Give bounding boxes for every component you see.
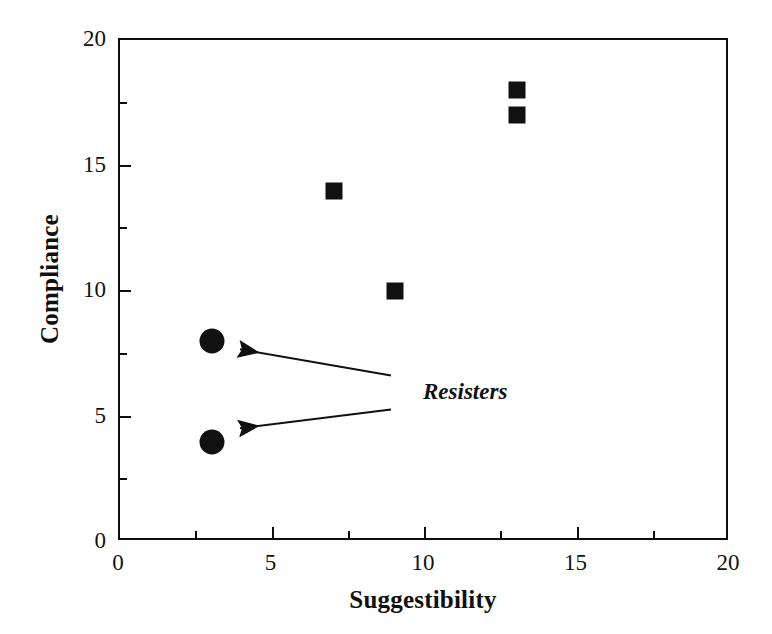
data-point-square xyxy=(325,182,342,199)
x-axis-tick-label: 10 xyxy=(412,551,435,574)
scatter-plot-figure: 05101520 05101520 Suggestibility Complia… xyxy=(0,0,772,634)
plot-area xyxy=(118,38,728,540)
y-axis-tick-minor xyxy=(120,353,127,355)
x-axis-tick-label: 5 xyxy=(265,551,277,574)
y-axis-tick-major xyxy=(120,416,131,418)
y-axis-tick-label: 5 xyxy=(95,403,107,426)
y-axis-tick-minor xyxy=(120,102,127,104)
x-axis-tick-label: 0 xyxy=(112,551,124,574)
x-axis-tick-major xyxy=(272,527,274,538)
x-axis-tick-major xyxy=(424,527,426,538)
data-point-square xyxy=(386,283,403,300)
data-point-circle xyxy=(199,429,224,454)
data-point-square xyxy=(508,82,525,99)
x-axis-tick-minor xyxy=(653,531,655,538)
data-point-square xyxy=(508,107,525,124)
y-axis-tick-minor xyxy=(120,478,127,480)
data-point-circle xyxy=(199,329,224,354)
annotation-resisters-label: Resisters xyxy=(423,379,507,405)
x-axis-tick-minor xyxy=(500,531,502,538)
x-axis-tick-label: 20 xyxy=(717,551,740,574)
y-axis-tick-minor xyxy=(120,227,127,229)
y-axis-tick-label: 15 xyxy=(83,152,106,175)
y-axis-tick-label: 20 xyxy=(83,27,106,50)
y-axis-tick-label: 0 xyxy=(95,529,107,552)
y-axis-tick-major xyxy=(120,290,131,292)
x-axis-tick-minor xyxy=(195,531,197,538)
y-axis-tick-major xyxy=(120,165,131,167)
x-axis-tick-labels: 05101520 xyxy=(118,551,728,581)
x-axis-tick-label: 15 xyxy=(564,551,587,574)
x-axis-tick-minor xyxy=(348,531,350,538)
x-axis-tick-major xyxy=(577,527,579,538)
y-axis-tick-label: 10 xyxy=(83,278,106,301)
x-axis-title: Suggestibility xyxy=(118,586,728,614)
y-axis-title: Compliance xyxy=(36,159,64,399)
